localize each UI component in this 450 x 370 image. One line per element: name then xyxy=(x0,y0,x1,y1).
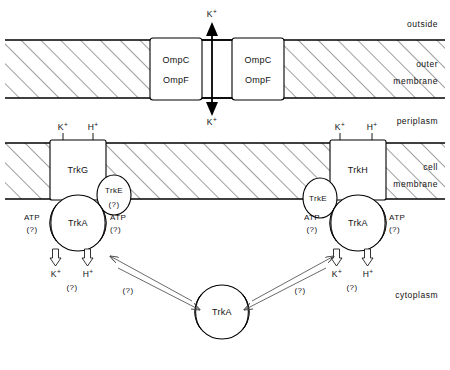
trkA-right-atp-left-unknown: (?) xyxy=(307,225,318,234)
trkA-left-atp-right-unknown: (?) xyxy=(110,225,121,234)
trkG-label: TrkG xyxy=(68,165,89,175)
porin-right-label-ompf: OmpF xyxy=(245,75,271,85)
porin-left-label-ompf: OmpF xyxy=(163,75,189,85)
trkA-cytoplasmic-pool[interactable]: TrkA xyxy=(195,285,249,339)
trkA-right-atp-left-label: ATP xyxy=(304,213,320,222)
trkA-right-atp-right-label: ATP xyxy=(389,213,405,222)
left-exchange-unknown: (?) xyxy=(123,286,134,295)
region-label-cell-membrane-line2: membrane xyxy=(393,179,438,189)
trkA-left-atp-left-label: ATP xyxy=(24,213,40,222)
trkA-pool-label: TrkA xyxy=(212,307,232,317)
trkA-right-atp-right-unknown: (?) xyxy=(389,225,400,234)
outer-membrane-band xyxy=(5,40,445,98)
trkA-left[interactable]: TrkA xyxy=(50,195,106,251)
trkE-left-label: TrkE xyxy=(105,186,123,195)
trkH-box[interactable]: TrkH xyxy=(330,140,386,200)
trkA-left-atp-right-label: ATP xyxy=(110,213,126,222)
trkA-right-label: TrkA xyxy=(348,218,368,228)
trkA-left-atp-left-unknown: (?) xyxy=(27,225,38,234)
trkE-left-unknown: (?) xyxy=(109,200,120,209)
region-label-cell-membrane-line1: cell xyxy=(423,162,438,172)
region-label-outside: outside xyxy=(407,19,438,29)
trkA-right[interactable]: TrkA xyxy=(330,195,386,251)
region-label-cytoplasm: cytoplasm xyxy=(395,290,438,300)
membrane-transport-diagram: K+ K+ OmpC OmpF OmpC OmpF K+ H+ TrkG Trk… xyxy=(0,0,450,370)
region-label-periplasm: periplasm xyxy=(397,116,438,126)
region-label-outer-membrane-line1: outer xyxy=(416,59,438,69)
porin-right-label-ompc: OmpC xyxy=(244,55,271,65)
trkG-efflux-unknown: (?) xyxy=(67,283,78,292)
region-label-outer-membrane-line2: membrane xyxy=(393,76,438,86)
trkE-right-label: TrkE xyxy=(309,194,327,203)
diagram-canvas: K+ K+ OmpC OmpF OmpC OmpF K+ H+ TrkG Trk… xyxy=(0,0,450,370)
porin-left-label-ompc: OmpC xyxy=(162,55,189,65)
trkH-efflux-unknown: (?) xyxy=(347,283,358,292)
porin-left[interactable]: OmpC OmpF xyxy=(150,38,202,100)
trkA-left-label: TrkA xyxy=(68,218,88,228)
porin-right[interactable]: OmpC OmpF xyxy=(232,38,284,100)
right-exchange-unknown: (?) xyxy=(295,286,306,295)
trkH-label: TrkH xyxy=(348,165,368,175)
